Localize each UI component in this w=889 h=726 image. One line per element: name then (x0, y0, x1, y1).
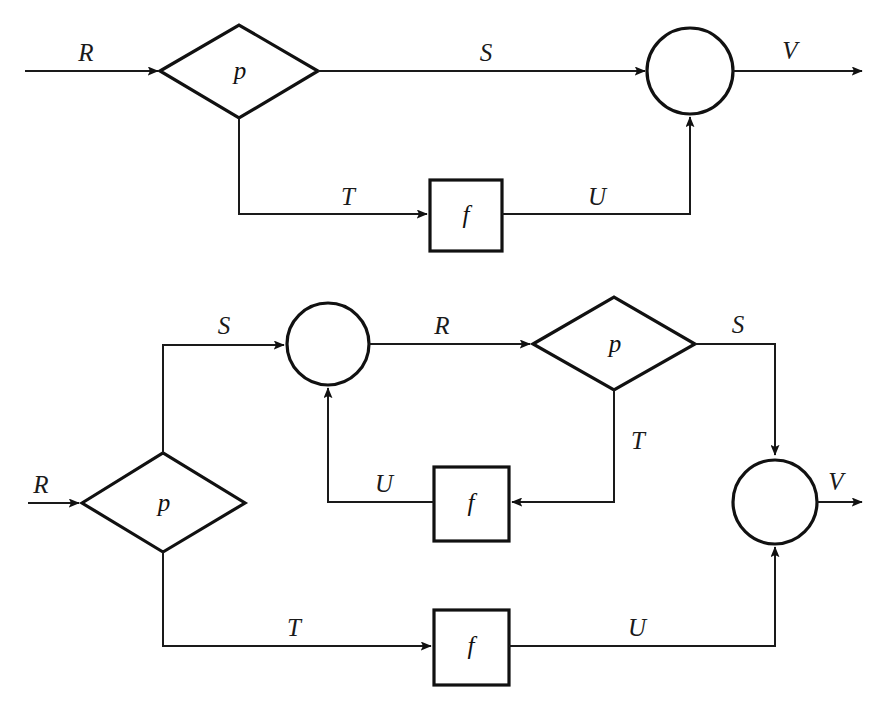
bottom-circle-merge-2 (733, 460, 817, 544)
top-label-V: V (782, 38, 797, 63)
bottom-label-R-in: R (33, 472, 48, 497)
bottom-diamond-p-1-label: p (156, 489, 171, 516)
top-edge-T (239, 118, 427, 214)
bottom-label-T-mid: T (631, 428, 645, 453)
top-diamond-p-label: p (232, 57, 247, 84)
top-label-U: U (588, 184, 606, 209)
bottom-label-U-mid: U (375, 471, 393, 496)
figure-canvas: p f p (0, 0, 889, 726)
bottom-label-T-low: T (287, 615, 301, 640)
bottom-label-U-low: U (628, 615, 646, 640)
top-label-T: T (341, 184, 355, 209)
bottom-circle-merge-1 (287, 303, 369, 385)
bottom-edge-S-up (163, 345, 284, 453)
bottom-edge-S-right (695, 344, 775, 455)
bottom-label-S-up: S (218, 313, 231, 338)
bottom-label-S-right: S (732, 312, 745, 337)
top-circle-merge (647, 28, 733, 114)
bottom-diagram-group: p p f f (28, 297, 862, 685)
top-label-S: S (480, 40, 493, 65)
bottom-diamond-p-2-label: p (607, 330, 622, 357)
bottom-label-V-out: V (828, 469, 843, 494)
top-label-R: R (78, 40, 93, 65)
flow-diagram-svg: p f p (0, 0, 889, 726)
bottom-edge-T-mid (512, 390, 614, 502)
top-diagram-group: p f (25, 25, 862, 251)
bottom-label-R-mid: R (434, 313, 449, 338)
